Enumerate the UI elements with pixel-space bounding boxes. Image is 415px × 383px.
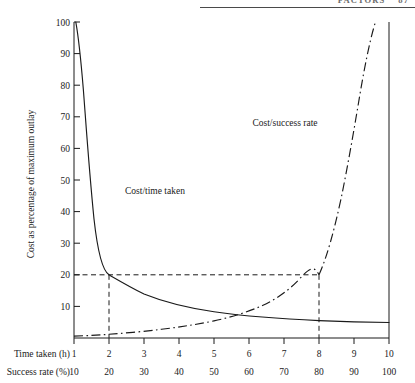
y-axis-ticks: [74, 22, 80, 306]
y-axis-tick-labels: 100 90 80 70 60 50 40 30 20 10: [56, 18, 71, 312]
x-tick-label-time-2: 2: [107, 349, 112, 359]
x-tick-label-time-3: 3: [142, 349, 147, 359]
running-header: FACTORS 87: [0, 0, 415, 9]
x-tick-label-success-20: 20: [104, 367, 114, 377]
x-axis-tick-labels-success-rate: 10 20 30 40 50 60 70 80 90 100: [69, 367, 396, 377]
header-title: FACTORS 87: [338, 0, 409, 5]
x-tick-label-time-9: 9: [352, 349, 357, 359]
guide-lines: [74, 275, 319, 338]
x-tick-label-time-1: 1: [72, 349, 77, 359]
x-tick-label-success-70: 70: [279, 367, 289, 377]
y-tick-label-70: 70: [61, 112, 71, 122]
chart-svg: Cost as percentage of maximum outlay: [0, 9, 415, 383]
y-tick-label-90: 90: [61, 49, 71, 59]
x-axis-ticks: [74, 338, 389, 344]
x-tick-label-success-10: 10: [69, 367, 79, 377]
x-tick-label-success-50: 50: [209, 367, 219, 377]
x-axis-label-success-rate: Success rate (%): [7, 367, 70, 378]
annotation-cost-time-taken: Cost/time taken: [125, 186, 185, 196]
x-tick-label-success-40: 40: [174, 367, 184, 377]
x-tick-label-time-8: 8: [317, 349, 322, 359]
y-tick-label-50: 50: [61, 176, 71, 186]
x-axis-label-time-taken: Time taken (h): [14, 349, 70, 360]
y-tick-label-100: 100: [56, 18, 71, 28]
page-root: FACTORS 87 Cost as percentage of maximum…: [0, 0, 415, 383]
page-number: 87: [398, 0, 409, 5]
x-tick-label-time-7: 7: [282, 349, 287, 359]
y-tick-label-80: 80: [61, 81, 71, 91]
y-axis-label: Cost as percentage of maximum outlay: [26, 109, 36, 258]
annotation-cost-success-rate: Cost/success rate: [252, 118, 317, 128]
axis-spines: [74, 22, 389, 338]
y-tick-label-20: 20: [61, 270, 71, 280]
x-tick-label-success-90: 90: [349, 367, 359, 377]
y-tick-label-30: 30: [61, 239, 71, 249]
x-tick-label-success-100: 100: [382, 367, 397, 377]
x-axis-tick-labels-time-taken: 1 2 3 4 5 6 7 8 9 10: [72, 349, 394, 359]
running-head-text: FACTORS: [338, 0, 386, 5]
chart-figure: Cost as percentage of maximum outlay: [0, 9, 415, 383]
x-tick-label-time-10: 10: [384, 349, 394, 359]
header-rule: [200, 7, 415, 8]
x-tick-label-time-6: 6: [247, 349, 252, 359]
series-cost-time-taken: [76, 22, 389, 323]
x-tick-label-time-5: 5: [212, 349, 217, 359]
y-tick-label-60: 60: [61, 144, 71, 154]
series-cost-success-rate: [74, 269, 319, 336]
x-tick-label-success-30: 30: [139, 367, 149, 377]
y-tick-label-10: 10: [61, 302, 71, 312]
x-tick-label-time-4: 4: [177, 349, 182, 359]
y-tick-label-40: 40: [61, 207, 71, 217]
x-tick-label-success-80: 80: [314, 367, 324, 377]
series-cost-success-rate-upper: [319, 22, 376, 275]
x-tick-label-success-60: 60: [244, 367, 254, 377]
